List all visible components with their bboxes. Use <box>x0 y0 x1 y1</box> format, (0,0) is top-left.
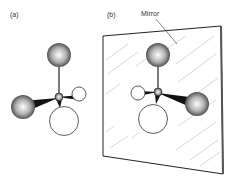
molecule-a <box>11 43 86 136</box>
atom-top <box>47 43 71 67</box>
atom-right <box>185 92 209 116</box>
atom-large-bottom <box>139 105 168 134</box>
atom-top <box>146 43 170 67</box>
chirality-diagram: (a) (b) <box>0 0 237 187</box>
mirror-label: Mirror <box>141 10 160 17</box>
atom-left <box>11 95 35 119</box>
panel-b-label: (b) <box>107 11 116 19</box>
panel-a-label: (a) <box>10 11 19 19</box>
atom-center <box>55 93 63 101</box>
atom-large-bottom <box>50 107 79 136</box>
atom-center <box>154 88 162 96</box>
atom-small-right <box>72 87 86 101</box>
atom-small-left <box>131 86 145 100</box>
